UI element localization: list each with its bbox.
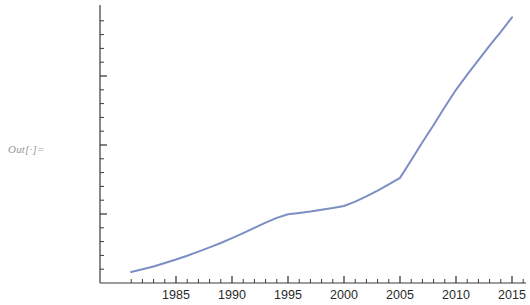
x-axis-tick-label: 2005 xyxy=(386,288,414,302)
x-axis-tick-label: 1985 xyxy=(162,288,190,302)
x-axis-tick-label: 1995 xyxy=(274,288,302,302)
line-chart-plot xyxy=(0,0,530,305)
x-axis-tick-label: 2000 xyxy=(330,288,358,302)
x-axis-tick-label: 1990 xyxy=(218,288,246,302)
x-axis-tick-label: 2015 xyxy=(498,288,526,302)
x-axis-tick-label: 2010 xyxy=(442,288,470,302)
mathematica-output-cell: Out[·]= 500010 00015 000 198519901995200… xyxy=(0,0,530,305)
data-series-line xyxy=(131,17,512,272)
